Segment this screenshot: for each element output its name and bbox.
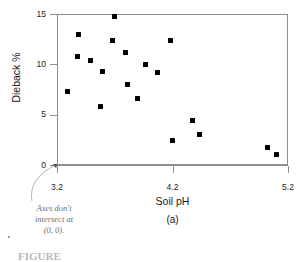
data-point (125, 82, 130, 87)
data-point (143, 62, 148, 67)
data-point (112, 14, 117, 19)
data-point (110, 38, 115, 43)
x-axis-tick (173, 166, 174, 173)
data-point (88, 58, 93, 63)
data-point (190, 118, 195, 123)
y-axis-tick (50, 64, 57, 65)
y-axis-title: Dieback % (11, 42, 22, 114)
annotation-line-1: Axes don't (36, 203, 71, 213)
x-axis-tick-label-text: 4.2 (167, 182, 179, 192)
y-axis-tick-label: 15 (26, 10, 46, 19)
annotation-axes-break-note: Axes don't intersect at (0, 0). (6, 203, 102, 236)
data-point (76, 32, 81, 37)
x-axis-tick-label-text: 5.2 (282, 182, 294, 192)
data-point (170, 138, 175, 143)
x-axis-tick-label: 5.2 (268, 176, 308, 194)
y-axis-tick-label-text: 5 (26, 110, 46, 119)
stray-ink-mark (8, 236, 10, 238)
data-point (197, 132, 202, 137)
y-axis-tick-label: 5 (26, 110, 46, 119)
data-point (135, 96, 140, 101)
data-point (123, 50, 128, 55)
y-axis-tick-label-text: 10 (26, 60, 46, 69)
y-axis-line (57, 14, 58, 165)
data-point (98, 104, 103, 109)
annotation-line-2: intersect at (6, 214, 102, 225)
data-point (75, 54, 80, 59)
annotation-line-3: (0, 0). (6, 225, 102, 236)
data-point (100, 69, 105, 74)
y-axis-tick (50, 14, 57, 15)
data-point (168, 38, 173, 43)
data-point (274, 152, 279, 157)
x-axis-tick (288, 166, 289, 173)
data-point (265, 145, 270, 150)
y-axis-tick-label: 10 (26, 60, 46, 69)
y-axis-tick-label-text: 15 (26, 10, 46, 19)
figure-caption: FIGURE (18, 250, 304, 262)
x-axis-tick-label: 4.2 (153, 176, 193, 194)
annotation-leader-line (28, 160, 62, 202)
data-point (155, 70, 160, 75)
data-point (65, 89, 70, 94)
y-axis-tick (50, 115, 57, 116)
